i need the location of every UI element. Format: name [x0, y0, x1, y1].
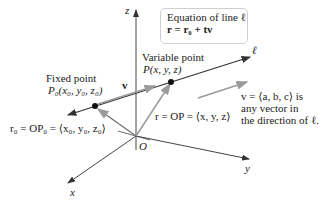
- origin-label: O: [139, 140, 147, 152]
- direction-vector-v: [98, 82, 247, 104]
- v-vector-label: v: [122, 79, 128, 91]
- v-description-line2: any vector in: [241, 102, 298, 114]
- fixed-point-dot: [92, 103, 98, 109]
- y-axis: [136, 136, 249, 159]
- variable-point-title: Variable point: [142, 51, 204, 63]
- r-position-vector-label: r = OP = ⟨x, y, z⟩: [155, 110, 230, 122]
- y-axis-label: y: [245, 162, 250, 174]
- x-axis-label: x: [70, 186, 75, 198]
- x-axis: [68, 136, 136, 183]
- equation-title: Equation of line ℓ: [167, 11, 247, 23]
- variable-point-coords: P(x, y, z): [143, 63, 181, 75]
- v-description-line1: v = ⟨a, b, c⟩ is: [241, 90, 303, 102]
- equation-formula: r = r₀ + tv: [167, 23, 247, 35]
- line-ell-label: ℓ: [252, 44, 257, 56]
- equation-box: Equation of line ℓ r = r₀ + tv: [160, 8, 248, 44]
- r0-position-vector-label: r₀ = OP₀ = ⟨x₀, y₀, z₀⟩: [10, 122, 106, 134]
- variable-point-dot: [168, 79, 174, 85]
- fixed-point-title: Fixed point: [46, 72, 96, 84]
- z-axis-label: z: [125, 4, 129, 16]
- v-description-line3: the direction of ℓ.: [241, 114, 319, 126]
- fixed-point-coords: P₀(x₀, y₀, z₀): [48, 84, 102, 96]
